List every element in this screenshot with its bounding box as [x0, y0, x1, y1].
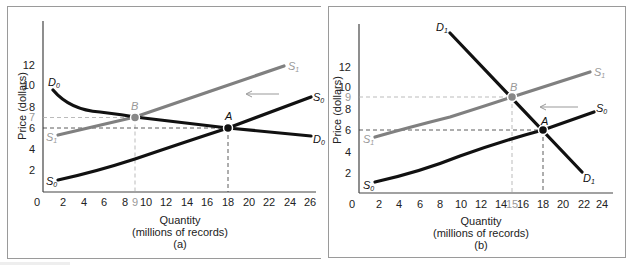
s1-curve-b	[375, 72, 590, 137]
point-b-b	[508, 93, 517, 102]
svg-text:2: 2	[29, 164, 35, 176]
label-d1-top: D1	[436, 21, 448, 34]
svg-text:6: 6	[345, 124, 351, 136]
x-axis-title-a: Quantity	[160, 214, 201, 226]
decorative-bar	[0, 262, 70, 265]
label-point-b-b: B	[510, 81, 517, 93]
svg-text:4: 4	[345, 146, 351, 158]
svg-text:8: 8	[29, 101, 35, 113]
svg-text:4: 4	[29, 143, 35, 155]
svg-text:6: 6	[29, 122, 35, 134]
label-d1-bottom: D1	[583, 172, 595, 185]
svg-text:2: 2	[60, 196, 66, 208]
svg-text:2: 2	[376, 198, 382, 210]
s0-curve-a	[58, 97, 311, 180]
label-s0-right-b: S0	[596, 102, 607, 115]
svg-text:12: 12	[339, 61, 351, 73]
y-axis-title-b: Price (dollars)	[331, 76, 343, 144]
svg-text:12: 12	[475, 198, 487, 210]
label-point-a-b: A	[540, 115, 548, 127]
svg-text:6: 6	[417, 198, 423, 210]
svg-text:18: 18	[222, 196, 234, 208]
x-axis-subtitle-b: (millions of records)	[433, 227, 529, 239]
label-s0-left: S0	[46, 175, 57, 188]
svg-text:8: 8	[345, 103, 351, 115]
x-axis-subtitle-a: (millions of records)	[132, 226, 228, 238]
label-s1-right-b: S1	[594, 66, 605, 79]
svg-text:0: 0	[349, 198, 355, 210]
chart-b: B A D1 D1 S0 S1 S1 S0 2 4 6 8 9 10 12 0 …	[329, 7, 626, 258]
label-s1-left: S1	[46, 131, 57, 144]
x-axis-title-b: Quantity	[461, 215, 502, 227]
svg-text:20: 20	[243, 196, 255, 208]
svg-text:10: 10	[140, 196, 152, 208]
label-point-a-a: A	[224, 110, 232, 122]
caption-b: (b)	[474, 239, 487, 251]
svg-text:16: 16	[517, 198, 529, 210]
svg-text:20: 20	[557, 198, 569, 210]
x-tick-labels-a: 0 2 4 6 8 9 10 12 14 16 18 20 22 24 26	[34, 196, 316, 208]
svg-text:24: 24	[284, 196, 296, 208]
svg-text:12: 12	[23, 59, 35, 71]
label-s1-right: S1	[288, 60, 299, 73]
svg-text:0: 0	[34, 196, 40, 208]
label-point-b-a: B	[131, 100, 138, 112]
x-tick-labels-b: 0 2 4 6 8 10 12 14 15 16 18 20 22 24	[349, 198, 608, 210]
svg-text:6: 6	[101, 196, 107, 208]
svg-text:14: 14	[181, 196, 193, 208]
svg-text:22: 22	[263, 196, 275, 208]
svg-text:16: 16	[201, 196, 213, 208]
svg-text:8: 8	[122, 196, 128, 208]
svg-text:4: 4	[81, 196, 87, 208]
svg-text:24: 24	[596, 198, 608, 210]
label-s0-right: S0	[313, 91, 324, 104]
svg-text:4: 4	[396, 198, 402, 210]
s0-curve-b	[375, 112, 594, 182]
charts-canvas: B A D0 S0 D0 S1 S1 S0 2 4 6 7 8 10 12 0 …	[0, 0, 627, 268]
svg-text:26: 26	[304, 196, 316, 208]
y-axis-title-a: Price (dollars)	[16, 72, 28, 140]
svg-text:12: 12	[160, 196, 172, 208]
svg-text:22: 22	[578, 198, 590, 210]
caption-a: (a)	[173, 238, 186, 250]
s1-curve-a	[58, 66, 284, 135]
point-a-a	[224, 124, 233, 133]
point-b-a	[131, 113, 140, 122]
label-d0-top: D0	[48, 76, 60, 89]
svg-text:10: 10	[455, 198, 467, 210]
label-s1-left-b: S1	[363, 133, 374, 146]
label-d0-right: D0	[313, 133, 325, 146]
svg-text:9: 9	[132, 196, 138, 208]
chart-a: B A D0 S0 D0 S1 S1 S0 2 4 6 7 8 10 12 0 …	[16, 21, 325, 250]
svg-text:18: 18	[537, 198, 549, 210]
svg-text:8: 8	[437, 198, 443, 210]
label-s0-left-b: S0	[363, 179, 374, 192]
svg-text:2: 2	[345, 167, 351, 179]
